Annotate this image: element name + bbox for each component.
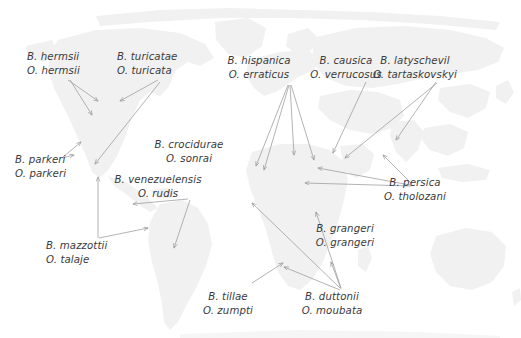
borrelia-species-name: B. crocidurae	[155, 138, 224, 152]
borrelia-species-name: B. venezuelensis	[114, 173, 201, 187]
borrelia-species-name: B. tillae	[203, 290, 253, 304]
species-label-tillae: B. tillaeO. zumpti	[203, 290, 253, 318]
ornithodoros-vector-name: O. talaje	[46, 253, 107, 267]
species-label-causica: B. causicaO. verrucosus	[310, 54, 381, 82]
ornithodoros-vector-name: O. parkeri	[15, 167, 66, 181]
species-label-grangeri: B. grangeriO. grangeri	[316, 222, 374, 250]
borrelia-species-name: B. latyschevil	[373, 54, 457, 68]
species-label-hermsii: B. hermsiiO. hermsii	[27, 50, 80, 78]
distribution-map-figure: B. hermsiiO. hermsiiB. turicataeO. turic…	[0, 0, 521, 338]
ornithodoros-vector-name: O. turicata	[117, 64, 177, 78]
borrelia-species-name: B. persica	[384, 176, 446, 190]
species-label-venezuelensis: B. venezuelensisO. rudis	[114, 173, 201, 201]
borrelia-species-name: B. hermsii	[27, 50, 80, 64]
species-label-latyschevil: B. latyschevilO. tartaskovskyi	[373, 54, 457, 82]
borrelia-species-name: B. mazzottii	[46, 239, 107, 253]
ornithodoros-vector-name: O. erraticus	[227, 68, 290, 82]
ornithodoros-vector-name: O. tholozani	[384, 190, 446, 204]
ornithodoros-vector-name: O. hermsii	[27, 64, 80, 78]
ornithodoros-vector-name: O. moubata	[302, 304, 363, 318]
species-label-turicatae: B. turicataeO. turicata	[117, 50, 177, 78]
ornithodoros-vector-name: O. rudis	[114, 187, 201, 201]
borrelia-species-name: B. hispanica	[227, 54, 290, 68]
ornithodoros-vector-name: O. sonrai	[155, 152, 224, 166]
ornithodoros-vector-name: O. zumpti	[203, 304, 253, 318]
borrelia-species-name: B. duttonii	[302, 290, 363, 304]
ornithodoros-vector-name: O. grangeri	[316, 236, 374, 250]
species-label-hispanica: B. hispanicaO. erraticus	[227, 54, 290, 82]
borrelia-species-name: B. parkeri	[15, 153, 66, 167]
label-layer: B. hermsiiO. hermsiiB. turicataeO. turic…	[0, 0, 521, 338]
ornithodoros-vector-name: O. verrucosus	[310, 68, 381, 82]
borrelia-species-name: B. turicatae	[117, 50, 177, 64]
borrelia-species-name: B. grangeri	[316, 222, 374, 236]
species-label-duttonii: B. duttoniiO. moubata	[302, 290, 363, 318]
species-label-crocidurae: B. crociduraeO. sonrai	[155, 138, 224, 166]
species-label-persica: B. persicaO. tholozani	[384, 176, 446, 204]
ornithodoros-vector-name: O. tartaskovskyi	[373, 68, 457, 82]
species-label-mazzottii: B. mazzottiiO. talaje	[46, 239, 107, 267]
borrelia-species-name: B. causica	[310, 54, 381, 68]
species-label-parkeri: B. parkeriO. parkeri	[15, 153, 66, 181]
